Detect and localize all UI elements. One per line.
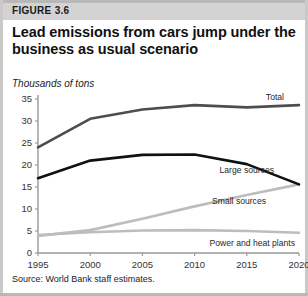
y-tick-label: 10 [21, 203, 32, 214]
axis-unit-label: Thousands of tons [12, 78, 94, 89]
source-note: Source: World Bank staff estimates. [12, 274, 155, 284]
figure-number: FIGURE 3.6 [12, 5, 69, 16]
y-tick-label: 25 [21, 137, 32, 148]
chart-plot-area: 05101520253035199520002005201020152020To… [0, 90, 308, 270]
y-tick-label: 35 [21, 93, 32, 104]
series-line-small-sources [38, 184, 299, 235]
x-tick-label: 2005 [132, 259, 153, 270]
x-tick-label: 2000 [80, 259, 101, 270]
series-line-total [38, 105, 299, 147]
series-label-power-heat: Power and heat plants [209, 238, 295, 248]
y-tick-label: 20 [21, 159, 32, 170]
series-label-small-sources: Small sources [212, 196, 266, 206]
x-tick-label: 2020 [288, 259, 308, 270]
line-chart: 05101520253035199520002005201020152020To… [0, 90, 308, 270]
y-tick-label: 15 [21, 181, 32, 192]
series-label-large-sources: Large sources [220, 165, 274, 175]
x-tick-label: 2010 [184, 259, 205, 270]
figure-card: FIGURE 3.6 Lead emissions from cars jump… [0, 0, 308, 296]
page-title: Lead emissions from cars jump under the … [12, 24, 298, 58]
y-tick-label: 0 [27, 247, 32, 258]
series-label-total: Total [266, 92, 284, 102]
y-tick-label: 5 [27, 225, 32, 236]
y-tick-label: 30 [21, 115, 32, 126]
x-tick-label: 1995 [27, 259, 48, 270]
x-tick-label: 2015 [236, 259, 257, 270]
